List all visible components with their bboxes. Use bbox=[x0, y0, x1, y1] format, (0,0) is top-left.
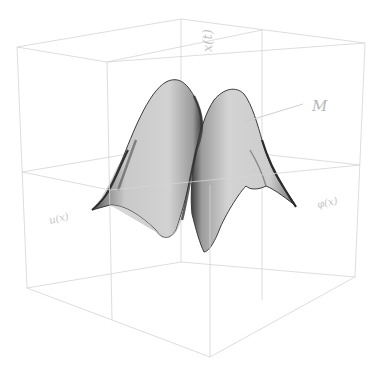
surface bbox=[92, 80, 296, 252]
surface-plot: M x(t) u(x) φ(x) bbox=[0, 0, 379, 370]
right-axis-label: φ(x) bbox=[316, 195, 338, 210]
annotation-label-m: M bbox=[311, 97, 328, 115]
left-axis-label: u(x) bbox=[48, 210, 70, 226]
vertical-axis-label: x(t) bbox=[200, 29, 215, 52]
